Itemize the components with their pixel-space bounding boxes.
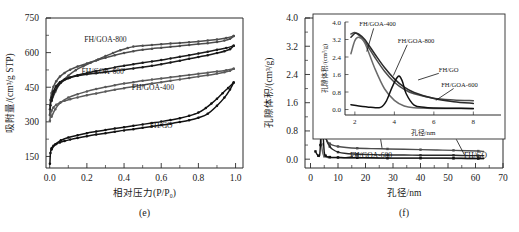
panel-e-data-point <box>60 81 63 84</box>
panel-f-ytick-label: 0.0 <box>286 155 298 165</box>
panel-e-data-point <box>160 47 163 50</box>
panel-e-data-point <box>49 152 52 155</box>
panel-e-data-point <box>232 68 235 71</box>
panel-e-data-point <box>49 119 52 122</box>
panel-e-data-point <box>123 52 126 55</box>
panel-f-inset-xaxis-title: 孔径/nm <box>411 128 436 137</box>
panel-e-data-point <box>60 139 63 142</box>
panel-e-data-point <box>123 126 126 128</box>
panel-e-data-point <box>229 48 232 51</box>
panel-f-ytick-label: 1.6 <box>286 98 298 108</box>
panel-e-xtick-label: 0.2 <box>81 173 93 183</box>
panel-f-data-point <box>452 157 454 159</box>
panel-e-data-point <box>76 74 79 77</box>
panel-e-data-point <box>225 69 228 72</box>
panel-e-ytick-label: 450 <box>25 83 40 93</box>
panel-e-data-point <box>132 50 135 53</box>
panel-e-data-point <box>76 93 79 96</box>
panel-f-data-point <box>329 156 331 158</box>
panel-e-data-point <box>179 117 182 120</box>
panel-e-data-point <box>188 119 191 122</box>
panel-e-data-point <box>216 98 219 101</box>
panel-e-data-point <box>179 42 182 45</box>
panel-e-data-point <box>223 96 226 99</box>
panel-f-data-point <box>314 150 316 152</box>
panel-e-data-point <box>54 143 57 146</box>
panel-e-data-point <box>206 42 209 45</box>
panel-f-xaxis-title: 孔径/nm <box>387 187 422 198</box>
panel-e-data-point <box>225 47 228 50</box>
panel-e-data-point <box>216 49 219 52</box>
panel-f-data-point <box>452 149 454 151</box>
panel-f-data-point <box>319 144 321 146</box>
panel-e-data-point <box>188 41 191 44</box>
panel-f-xtick-label: 0 <box>308 173 313 183</box>
panel-e-data-point <box>76 65 79 68</box>
panel-f-inset-xtick-label: 6 <box>432 118 436 126</box>
panel-f-leader-400 <box>381 139 382 148</box>
panel-e-data-point <box>119 49 122 52</box>
panel-e-isotherm: 1503004506007500.00.20.40.60.81.0FH/GOA-… <box>0 0 260 232</box>
panel-e-data-point <box>141 66 144 69</box>
panel-e-data-point <box>141 44 144 47</box>
panel-e-data-point <box>197 40 200 43</box>
panel-e-data-point <box>206 74 209 77</box>
panel-f-xtick-label: 50 <box>443 173 453 183</box>
panel-e-data-point <box>69 68 72 71</box>
panel-e-data-point <box>95 92 98 95</box>
panel-e-data-point <box>95 88 98 91</box>
panel-f-ytick-label: 4.0 <box>286 13 298 23</box>
panel-e-data-point <box>160 77 163 80</box>
panel-e-data-point <box>206 113 209 116</box>
panel-e-data-point <box>188 54 191 57</box>
panel-e-data-point <box>206 39 209 42</box>
panel-e-data-point <box>69 138 72 141</box>
panel-e-data-point <box>169 57 172 60</box>
panel-e-xtick-label: 0.4 <box>118 173 130 183</box>
panel-e-ytick-label: 300 <box>25 117 40 127</box>
panel-e-data-point <box>132 45 135 48</box>
panel-e-data-point <box>76 96 79 99</box>
panel-e-data-point <box>188 77 191 80</box>
panel-e-data-point <box>210 102 213 105</box>
panel-f-inset-ytick-label: 1.6 <box>332 71 341 79</box>
panel-e-data-point <box>123 87 126 90</box>
panel-f-caption: (f) <box>399 207 409 219</box>
panel-e-data-point <box>151 47 154 50</box>
panel-e-series-label: FH/GO <box>150 121 173 130</box>
panel-e-ytick-label: 600 <box>25 48 40 58</box>
panel-e-data-point <box>104 90 107 93</box>
panel-e-xtick-label: 0.6 <box>155 173 167 183</box>
panel-e-data-point <box>141 123 144 126</box>
panel-e-data-point <box>151 60 154 63</box>
panel-f-inset-ytick-label: 0.8 <box>332 89 341 97</box>
panel-e-data-point <box>197 75 200 78</box>
panel-e-data-point <box>49 104 52 107</box>
panel-e-data-point <box>141 127 144 130</box>
panel-e-data-point <box>221 92 224 95</box>
panel-f-data-point <box>386 148 388 150</box>
panel-e-data-point <box>206 71 209 74</box>
panel-e-series-label: FH/GOA-800 <box>84 35 126 44</box>
panel-e-data-point <box>60 101 63 104</box>
panel-e-data-point <box>67 136 70 139</box>
panel-e-data-point <box>86 90 89 93</box>
panel-e-data-point <box>160 43 163 46</box>
panel-e-data-point <box>132 63 135 66</box>
panel-e-data-point <box>104 129 107 132</box>
panel-e-data-point <box>50 116 53 119</box>
panel-e-data-point <box>50 148 53 151</box>
panel-e-data-point <box>232 44 235 47</box>
panel-e-data-point <box>49 163 52 166</box>
panel-e-data-point <box>160 63 163 66</box>
panel-f-xtick-label: 60 <box>471 173 481 183</box>
panel-f-inset-box <box>313 14 505 139</box>
panel-f-inset-xtick-label: 2 <box>353 118 357 126</box>
panel-e-data-point <box>169 80 172 83</box>
panel-e-curve-fh-go-desorption <box>52 83 234 150</box>
panel-e-data-point <box>104 86 107 89</box>
panel-e-caption: (e) <box>139 207 150 219</box>
panel-f-series-label: FH/GO <box>464 151 487 160</box>
panel-f-inset-xtick-label: 8 <box>472 118 476 126</box>
panel-f-inset-series-label: FH/GOA-800 <box>398 37 435 44</box>
